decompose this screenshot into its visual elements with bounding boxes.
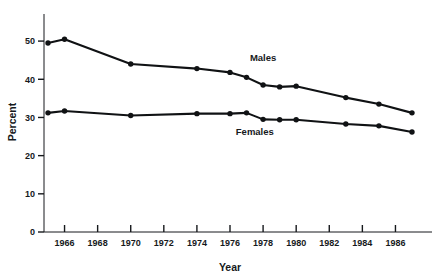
data-point-males (244, 75, 249, 80)
x-axis-tick-label: 1966 (55, 238, 75, 248)
y-axis-title: Percent (6, 102, 18, 141)
data-point-females (260, 117, 265, 122)
y-axis-tick-label: 50 (25, 36, 35, 46)
y-axis-tick-label: 10 (25, 189, 35, 199)
data-point-females (194, 111, 199, 116)
data-point-males (62, 36, 67, 41)
data-point-males (45, 40, 50, 45)
data-point-females (128, 113, 133, 118)
y-axis-tick-label: 30 (25, 113, 35, 123)
y-axis-tick-label: 20 (25, 151, 35, 161)
data-point-males (227, 70, 232, 75)
data-point-males (260, 82, 265, 87)
series-label-males: Males (250, 52, 276, 63)
data-point-males (409, 110, 414, 115)
x-axis-title: Year (219, 261, 241, 273)
x-axis-tick-label: 1968 (88, 238, 108, 248)
chart-container: 0102030405019661968197019721974197619781… (0, 0, 440, 277)
data-point-females (62, 108, 67, 113)
x-axis-tick-label: 1978 (253, 238, 273, 248)
y-axis-tick-label: 0 (30, 227, 35, 237)
data-point-males (376, 101, 381, 106)
data-point-males (277, 84, 282, 89)
data-point-females (244, 110, 249, 115)
x-axis-tick-label: 1984 (352, 238, 372, 248)
line-chart: 0102030405019661968197019721974197619781… (0, 0, 440, 277)
data-point-females (409, 129, 414, 134)
x-axis-tick-label: 1986 (385, 238, 405, 248)
data-point-females (376, 123, 381, 128)
x-axis-tick-label: 1974 (187, 238, 207, 248)
x-axis-tick-label: 1982 (319, 238, 339, 248)
x-axis-tick-label: 1980 (286, 238, 306, 248)
series-label-females: Females (236, 126, 274, 137)
x-axis-tick-label: 1970 (121, 238, 141, 248)
data-point-females (293, 117, 298, 122)
x-axis-tick-label: 1976 (220, 238, 240, 248)
data-point-females (343, 121, 348, 126)
data-point-males (128, 61, 133, 66)
series-line-males (48, 39, 412, 113)
data-point-males (194, 66, 199, 71)
data-point-females (227, 111, 232, 116)
data-point-males (343, 95, 348, 100)
data-point-males (293, 83, 298, 88)
y-axis-tick-label: 40 (25, 75, 35, 85)
x-axis-tick-label: 1972 (154, 238, 174, 248)
data-point-females (45, 110, 50, 115)
data-point-females (277, 117, 282, 122)
